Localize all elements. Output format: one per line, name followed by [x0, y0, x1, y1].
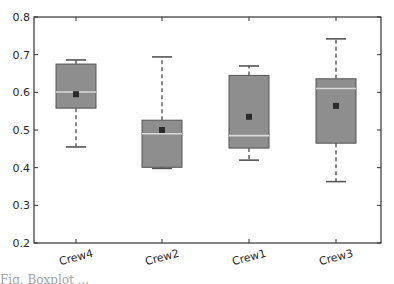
iqr-box [56, 64, 96, 108]
y-tick-label: 0.4 [13, 162, 31, 175]
x-axis-ticks: Crew4Crew2Crew1Crew3 [58, 17, 355, 268]
y-tick-label: 0.7 [13, 49, 31, 62]
x-tick-label: Crew2 [144, 247, 181, 269]
figure-caption: Fig. Boxplot ... [0, 273, 89, 284]
y-tick-label: 0.8 [13, 11, 31, 24]
x-tick-label: Crew1 [231, 247, 268, 269]
box-crew4 [56, 60, 96, 147]
box-crew1 [229, 66, 269, 160]
mean-marker [246, 114, 252, 120]
box-series [56, 39, 356, 182]
y-tick-label: 0.6 [13, 86, 31, 99]
x-tick-label: Crew3 [318, 247, 355, 269]
y-tick-label: 0.5 [13, 124, 31, 137]
mean-marker [73, 91, 79, 97]
box-crew2 [142, 57, 182, 168]
y-tick-label: 0.3 [13, 199, 31, 212]
y-tick-label: 0.2 [13, 237, 31, 250]
box-plot-chart: 0.20.30.40.50.60.70.8 Crew4Crew2Crew1Cre… [0, 0, 394, 270]
mean-marker [159, 127, 165, 133]
iqr-box [229, 75, 269, 148]
mean-marker [333, 103, 339, 109]
box-crew3 [316, 39, 356, 182]
x-tick-label: Crew4 [58, 247, 95, 269]
